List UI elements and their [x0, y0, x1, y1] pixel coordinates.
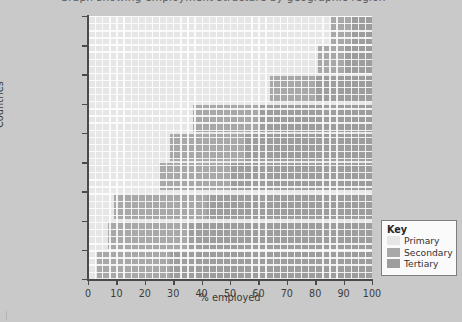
legend-swatch-tertiary: [387, 259, 400, 268]
x-axis-tick: [173, 279, 174, 285]
bar-segment-primary: [88, 163, 159, 190]
y-axis-tick: [82, 221, 88, 222]
legend-item: Primary: [387, 235, 452, 247]
legend-title: Key: [387, 224, 452, 235]
bar-segment-secondary: [159, 163, 230, 190]
bar-segment-primary: [88, 46, 318, 73]
y-axis-tick: [82, 191, 88, 192]
bar-row: [88, 46, 372, 73]
bar-segment-primary: [88, 222, 108, 249]
x-axis-tick: [258, 279, 259, 285]
x-axis-tick: [230, 279, 231, 285]
bar-segment-secondary: [193, 105, 258, 132]
bar-segment-secondary: [170, 134, 244, 161]
bar-row: [88, 163, 372, 190]
x-axis-tick: [315, 279, 316, 285]
x-axis-title: % employed: [88, 292, 372, 303]
bar-segment-primary: [88, 17, 329, 44]
legend-swatch-primary: [387, 236, 400, 245]
bar-segment-tertiary: [170, 251, 372, 278]
bar-segment-secondary: [270, 76, 315, 103]
legend-label: Tertiary: [404, 258, 438, 269]
legend-items: PrimarySecondaryTertiary: [387, 235, 452, 270]
y-axis-tick: [82, 250, 88, 251]
legend-label: Secondary: [404, 247, 453, 258]
x-axis-tick: [287, 279, 288, 285]
x-axis-tick: [88, 279, 89, 285]
plot-wrapper: 0102030405060708090100: [88, 16, 372, 279]
bar-segment-secondary: [97, 251, 171, 278]
y-axis-tick: [82, 45, 88, 46]
bar-segment-tertiary: [352, 17, 372, 44]
y-axis-line: [87, 15, 89, 280]
y-axis-tick: [82, 104, 88, 105]
x-axis-tick: [145, 279, 146, 285]
bar-segment-secondary: [108, 222, 188, 249]
bar-segment-primary: [88, 251, 97, 278]
x-axis-tick: [202, 279, 203, 285]
plot-area: [88, 16, 372, 279]
bar-row: [88, 76, 372, 103]
bar-row: [88, 222, 372, 249]
bar-segment-secondary: [114, 193, 208, 220]
bar-segment-tertiary: [207, 193, 372, 220]
bar-segment-primary: [88, 134, 170, 161]
y-axis-tick: [82, 16, 88, 17]
legend-key-box: Key PrimarySecondaryTertiary: [381, 220, 457, 276]
legend-swatch-secondary: [387, 248, 400, 257]
y-axis-tick: [82, 162, 88, 163]
bar-segment-secondary: [329, 17, 352, 44]
page-edge-artifact: [6, 311, 7, 320]
bar-segment-tertiary: [244, 134, 372, 161]
y-axis-tick: [82, 74, 88, 75]
bar-segment-tertiary: [187, 222, 372, 249]
legend-item: Tertiary: [387, 258, 452, 270]
x-axis-tick: [116, 279, 117, 285]
bar-row: [88, 134, 372, 161]
bar-segment-primary: [88, 193, 114, 220]
bar-segment-primary: [88, 105, 193, 132]
bar-row: [88, 193, 372, 220]
x-axis-tick: [372, 279, 373, 285]
y-axis-title: Countries: [0, 81, 5, 128]
chart-title-cropped: Graph showing employment structure by ge…: [60, 0, 400, 3]
chart-page: Graph showing employment structure by ge…: [0, 0, 462, 322]
bar-segment-tertiary: [344, 46, 372, 73]
bar-segment-tertiary: [315, 76, 372, 103]
bar-row: [88, 251, 372, 278]
bar-segment-tertiary: [230, 163, 372, 190]
legend-label: Primary: [404, 235, 440, 246]
bar-segment-tertiary: [258, 105, 372, 132]
bar-row: [88, 17, 372, 44]
bar-segment-primary: [88, 76, 270, 103]
bar-segment-secondary: [318, 46, 344, 73]
bar-row: [88, 105, 372, 132]
x-axis-tick: [344, 279, 345, 285]
y-axis-tick: [82, 133, 88, 134]
legend-item: Secondary: [387, 247, 452, 259]
